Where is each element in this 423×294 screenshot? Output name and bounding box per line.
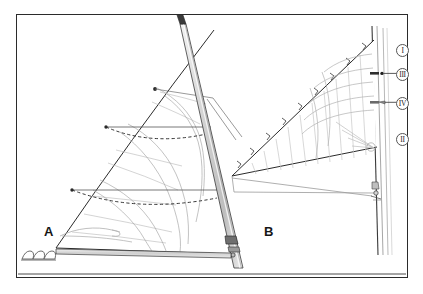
callout-marker-i: I xyxy=(396,44,409,57)
callout-marker-iv: IV xyxy=(396,97,409,110)
figure-page: A B I III IV II xyxy=(0,0,423,294)
panel-label-a: A xyxy=(44,224,53,239)
figure-frame xyxy=(16,14,408,278)
callout-marker-ii: II xyxy=(396,133,409,146)
callout-marker-iii: III xyxy=(396,68,409,81)
panel-label-b: B xyxy=(264,224,273,239)
